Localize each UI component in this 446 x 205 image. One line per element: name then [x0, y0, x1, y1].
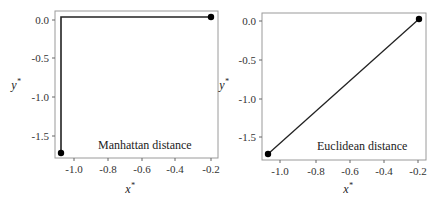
y-tick-label: -1.5 — [239, 131, 257, 143]
x-axis: -1.0 -0.8 -0.6 -0.4 -0.2 — [65, 158, 219, 175]
y-axis: 0.0 -0.5 -1.0 -1.5 — [239, 15, 262, 143]
x-axis-label: x* — [124, 181, 134, 196]
y-tick-label: 0.0 — [35, 14, 49, 26]
x-axis: -1.0 -0.8 -0.6 -0.4 -0.2 — [271, 160, 426, 177]
x-tick-label: -1.0 — [65, 163, 83, 175]
y-tick-label: -1.0 — [32, 91, 50, 103]
x-tick-label: -0.4 — [166, 163, 184, 175]
x-tick-label: -0.6 — [133, 163, 151, 175]
x-tick-label: -0.2 — [409, 165, 426, 177]
y-tick-label: 0.0 — [242, 15, 256, 27]
y-tick-label: -1.0 — [239, 93, 257, 105]
y-tick-label: -0.5 — [32, 52, 50, 64]
y-axis-label: y* — [218, 77, 228, 92]
x-tick-label: -0.8 — [99, 163, 117, 175]
x-tick-label: -0.4 — [375, 165, 393, 177]
euclidean-plot: 0.0 -0.5 -1.0 -1.5 -1.0 -0.8 -0.6 -0.4 -… — [218, 13, 426, 196]
end-point — [208, 14, 214, 20]
x-tick-label: -0.2 — [202, 163, 219, 175]
x-tick-label: -1.0 — [271, 165, 289, 177]
plot-annotation: Euclidean distance — [317, 139, 407, 153]
plot-annotation: Manhattan distance — [98, 138, 192, 152]
y-axis-label: y* — [10, 77, 20, 92]
x-tick-label: -0.6 — [341, 165, 359, 177]
start-point — [58, 150, 64, 156]
manhattan-plot: 0.0 -0.5 -1.0 -1.5 -1.0 -0.8 -0.6 -0.4 -… — [10, 11, 219, 196]
y-tick-label: -0.5 — [239, 54, 257, 66]
end-point — [416, 16, 422, 22]
x-axis-label: x* — [342, 181, 352, 196]
x-tick-label: -0.8 — [307, 165, 325, 177]
y-axis: 0.0 -0.5 -1.0 -1.5 — [32, 14, 55, 142]
plot-frame — [55, 11, 218, 158]
start-point — [265, 151, 271, 157]
figure: 0.0 -0.5 -1.0 -1.5 -1.0 -0.8 -0.6 -0.4 -… — [0, 0, 446, 205]
y-tick-label: -1.5 — [32, 130, 50, 142]
